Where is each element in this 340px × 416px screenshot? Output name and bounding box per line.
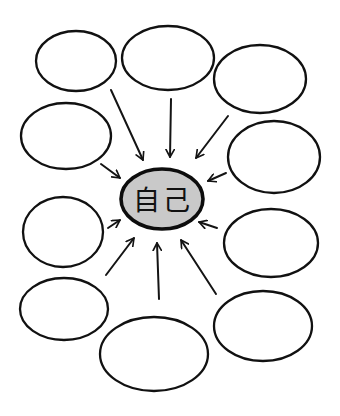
empty-oval[interactable]	[214, 291, 312, 361]
outer-node-left-middle[interactable]	[23, 197, 103, 267]
outer-node-top-left[interactable]	[36, 31, 116, 91]
empty-oval[interactable]	[23, 197, 103, 267]
empty-oval[interactable]	[122, 26, 214, 90]
arrow-icon	[108, 220, 120, 228]
outer-node-right-upper[interactable]	[228, 121, 320, 193]
center-label: 自己	[133, 185, 193, 216]
outer-node-top-right[interactable]	[214, 45, 306, 113]
arrow-icon	[199, 222, 217, 228]
arrow-icon	[101, 164, 120, 178]
center-node[interactable]: 自己	[121, 169, 203, 229]
empty-oval[interactable]	[36, 31, 116, 91]
arrow-icon	[196, 116, 228, 158]
arrow-icon	[157, 243, 159, 299]
empty-oval[interactable]	[214, 45, 306, 113]
empty-oval[interactable]	[21, 103, 111, 169]
outer-node-bottom-middle[interactable]	[100, 317, 208, 391]
arrow-icon	[111, 90, 143, 160]
outer-node-right-middle[interactable]	[224, 209, 318, 277]
outer-node-left-upper[interactable]	[21, 103, 111, 169]
arrow-icon	[181, 240, 216, 294]
empty-oval[interactable]	[228, 121, 320, 193]
outer-node-top-middle[interactable]	[122, 26, 214, 90]
empty-oval[interactable]	[20, 278, 108, 340]
empty-oval[interactable]	[224, 209, 318, 277]
arrow-icon	[170, 99, 171, 157]
concept-diagram: 自己	[0, 0, 340, 416]
empty-oval[interactable]	[100, 317, 208, 391]
outer-node-left-lower[interactable]	[20, 278, 108, 340]
arrow-icon	[208, 173, 226, 181]
outer-node-bottom-right[interactable]	[214, 291, 312, 361]
arrow-icon	[106, 238, 134, 275]
